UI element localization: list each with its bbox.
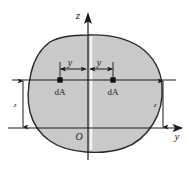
left-z-dimension-label: z bbox=[13, 101, 17, 109]
left-area-element-label: dA bbox=[55, 87, 67, 97]
y-axis-label: y bbox=[174, 130, 180, 142]
right-y-dimension-label: y bbox=[96, 57, 102, 68]
cross-section-area-shape bbox=[28, 35, 162, 153]
right-z-dimension-label: z bbox=[153, 101, 157, 109]
figure-canvas: z y O y y dA dA z z bbox=[0, 0, 189, 176]
figure-container: z y O y y dA dA z z bbox=[0, 0, 189, 176]
symmetry-strip bbox=[90, 36, 92, 150]
right-area-element-label: dA bbox=[108, 87, 120, 97]
right-area-element-marker bbox=[110, 77, 115, 82]
left-y-dimension-label: y bbox=[67, 57, 73, 68]
origin-label: O bbox=[75, 131, 82, 142]
left-area-element-marker bbox=[57, 77, 62, 82]
z-axis-label: z bbox=[75, 9, 81, 21]
left-da-text: dA bbox=[55, 87, 67, 97]
right-da-text: dA bbox=[108, 87, 120, 97]
